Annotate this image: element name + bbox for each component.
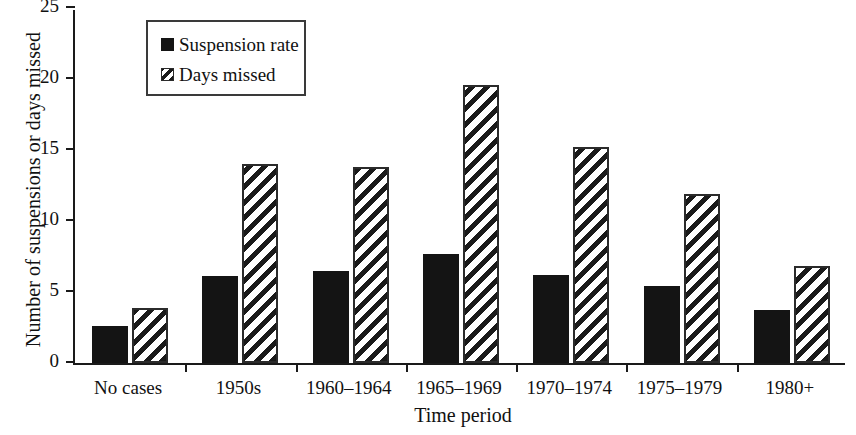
bar-suspension-rate [423,254,459,363]
y-axis-tick-label: 0 [50,351,60,370]
x-axis-tick [626,363,628,372]
bar-suspension-rate [202,276,238,363]
x-axis-tick [185,363,187,372]
bar-days-missed [463,85,499,363]
bar-days-missed [242,164,278,363]
y-axis-tick: 15 [66,148,75,150]
y-axis-tick-label: 15 [40,138,59,157]
y-axis-tick: 5 [66,290,75,292]
x-axis-category-label: 1980+ [765,377,814,399]
legend-item-days-missed: Days missed [161,59,304,89]
bar-days-missed [573,147,609,363]
y-axis-tick: 20 [66,77,75,79]
y-axis-tick: 10 [66,219,75,221]
x-axis-tick [737,363,739,372]
legend-label-suspension-rate: Suspension rate [179,35,299,54]
y-axis-tick: 0 [66,361,75,363]
bar-suspension-rate [754,310,790,363]
bar-days-missed [132,308,168,363]
bar-suspension-rate [533,275,569,363]
x-axis-category-label: 1970–1974 [527,377,613,399]
x-axis-tick [296,363,298,372]
legend-swatch-solid-icon [161,38,174,51]
x-axis-tick [516,363,518,372]
bar-chart-figure: Number of suspensions or days missed 051… [0,0,856,435]
y-axis-tick-label: 5 [50,280,60,299]
bar-days-missed [794,266,830,363]
bar-suspension-rate [313,271,349,363]
legend-label-days-missed: Days missed [179,65,276,84]
bar-days-missed [353,167,389,363]
x-axis-category-label: 1950s [216,377,261,399]
chart-legend: Suspension rate Days missed [146,20,306,96]
x-axis-category-label: No cases [94,377,162,399]
bar-suspension-rate [92,326,128,363]
legend-swatch-hatched-icon [161,68,174,81]
x-axis-category-label: 1965–1969 [416,377,502,399]
y-axis-tick-label: 20 [40,67,59,86]
x-axis-title: Time period [0,404,856,427]
legend-item-suspension-rate: Suspension rate [161,29,304,59]
y-axis-title: Number of suspensions or days missed [22,0,45,380]
x-axis-tick [406,363,408,372]
y-axis-tick: 25 [66,6,75,8]
bar-days-missed [684,194,720,363]
x-axis-category-label: 1975–1979 [637,377,723,399]
bar-suspension-rate [644,286,680,363]
y-axis-tick-label: 25 [40,0,59,15]
x-axis-title-text: Time period [414,404,512,427]
x-axis-category-label: 1960–1964 [306,377,392,399]
y-axis-tick-label: 10 [40,209,59,228]
